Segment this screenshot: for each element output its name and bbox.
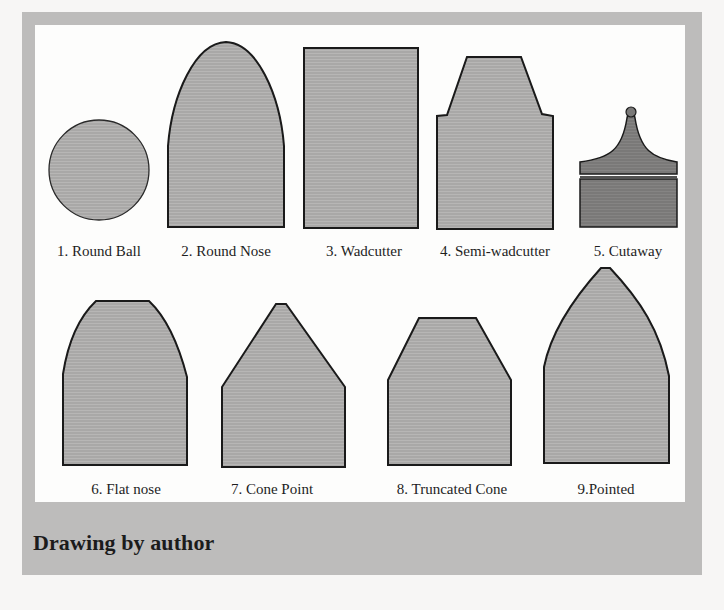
shape-label-round-nose: 2. Round Nose xyxy=(181,243,271,260)
flat-nose-bullet-icon xyxy=(63,301,187,465)
semi-wadcutter-bullet-icon xyxy=(437,57,553,229)
shape-label-truncated-cone: 8. Truncated Cone xyxy=(397,481,507,498)
shape-label-round-ball: 1. Round Ball xyxy=(57,243,141,260)
round-nose-bullet-icon xyxy=(168,42,284,227)
pointed-bullet-icon xyxy=(544,268,669,463)
cutaway-bullet-icon xyxy=(580,107,677,227)
shape-label-semi-wadcutter: 4. Semi-wadcutter xyxy=(440,243,550,260)
round-ball-bullet-icon xyxy=(49,120,149,220)
shape-label-flat-nose: 6. Flat nose xyxy=(91,481,161,498)
shape-label-pointed: 9.Pointed xyxy=(577,481,634,498)
truncated-cone-bullet-icon xyxy=(388,318,511,465)
shape-label-wadcutter: 3. Wadcutter xyxy=(326,243,402,260)
cone-point-bullet-icon xyxy=(222,304,345,467)
wadcutter-bullet-icon xyxy=(304,48,418,228)
shape-label-cone-point: 7. Cone Point xyxy=(231,481,313,498)
shape-label-cutaway: 5. Cutaway xyxy=(594,243,662,260)
bullet-shapes-drawing xyxy=(0,0,724,610)
